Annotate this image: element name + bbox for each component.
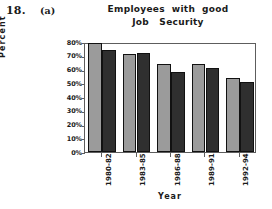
question-part-label: (a) xyxy=(40,5,55,16)
y-axis-tick-label: 10% xyxy=(60,136,82,143)
figure-header: 18. (a) Employees with good Job Security xyxy=(0,3,272,33)
y-axis-tick-label: 70% xyxy=(60,53,82,60)
bar-group xyxy=(88,44,116,152)
bar-group xyxy=(157,44,185,152)
x-axis-tick-mark xyxy=(136,153,137,157)
x-axis-tick-mark xyxy=(239,153,240,157)
bar xyxy=(88,43,102,152)
bar xyxy=(102,50,116,152)
x-axis-tick-label: 1992-94 xyxy=(242,153,250,186)
figure: 18. (a) Employees with good Job Security… xyxy=(0,0,272,209)
bar-group xyxy=(123,44,151,152)
y-axis-tick-label: 50% xyxy=(60,81,82,88)
bar xyxy=(157,64,171,152)
bar-group xyxy=(226,44,254,152)
x-axis-tick-mark xyxy=(170,153,171,157)
y-axis-title: Percent xyxy=(0,15,7,58)
bar-group xyxy=(192,44,220,152)
x-axis-title: Year xyxy=(84,192,256,201)
chart-title-line-1: Employees with good xyxy=(70,3,266,16)
plot-area xyxy=(84,43,256,153)
y-axis-tick-label: 20% xyxy=(60,122,82,129)
y-axis-tick-mark xyxy=(82,153,85,154)
bar xyxy=(123,54,137,152)
y-axis-tick-label: 40% xyxy=(60,95,82,102)
y-axis-tick-label: 80% xyxy=(60,40,82,47)
bar xyxy=(206,68,220,152)
bar xyxy=(137,53,151,152)
x-axis-tick-label: 1983-85 xyxy=(139,153,147,186)
chart-title: Employees with good Job Security xyxy=(70,3,266,29)
bar xyxy=(192,64,206,152)
bar xyxy=(226,78,240,152)
y-axis-tick-label: 0% xyxy=(60,150,82,157)
x-axis-tick-label: 1986-88 xyxy=(174,153,182,186)
bar xyxy=(240,82,254,152)
x-axis-tick-label: 1989-91 xyxy=(208,153,216,186)
x-axis-tick-mark xyxy=(101,153,102,157)
y-axis-tick-label: 30% xyxy=(60,108,82,115)
y-axis-tick-labels: 80%70%60%50%40%30%20%10%0% xyxy=(56,43,82,153)
bar xyxy=(171,72,185,152)
bar-series-container xyxy=(85,44,255,152)
y-axis-tick-label: 60% xyxy=(60,67,82,74)
chart-title-line-2: Job Security xyxy=(70,16,266,29)
x-axis-tick-label: 1980-82 xyxy=(105,153,113,186)
x-axis-tick-mark xyxy=(204,153,205,157)
question-number: 18. xyxy=(6,4,26,17)
